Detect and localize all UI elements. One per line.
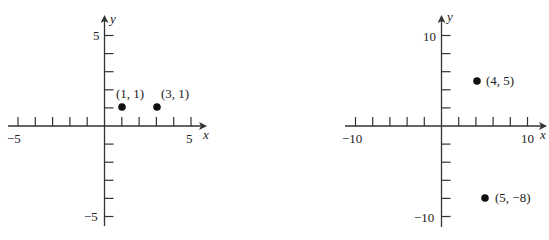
y-tick-label-max: 10	[423, 29, 436, 44]
y-tick-label-min: −5	[84, 209, 98, 224]
x-tick-label-min: −5	[7, 131, 21, 146]
y-tick-label-min: −10	[414, 210, 434, 225]
point-label: (3, 1)	[161, 86, 189, 101]
x-tick-label-max: 5	[186, 131, 193, 146]
y-axis-label: y	[108, 11, 116, 26]
data-point	[118, 103, 126, 111]
x-tick-label-max: 10	[521, 131, 534, 146]
figure: −5 5 5 −5 x y (1, 1) (3, 1) −10 10 10 −1…	[0, 0, 549, 240]
x-axis-label: x	[202, 127, 209, 142]
point-label: (1, 1)	[116, 86, 144, 101]
x-tick-label-min: −10	[342, 131, 362, 146]
point-label: (4, 5)	[486, 73, 514, 88]
data-point	[481, 194, 489, 202]
plot-left: −5 5 5 −5 x y (1, 1) (3, 1)	[7, 11, 209, 226]
point-label: (5, −8)	[495, 190, 531, 205]
y-tick-label-max: 5	[93, 28, 100, 43]
y-axis-label: y	[445, 9, 453, 24]
data-point	[153, 103, 161, 111]
plot-right: −10 10 10 −10 x y (4, 5) (5, −8)	[342, 9, 546, 227]
data-point	[473, 77, 481, 85]
x-axis-label: x	[539, 127, 546, 142]
